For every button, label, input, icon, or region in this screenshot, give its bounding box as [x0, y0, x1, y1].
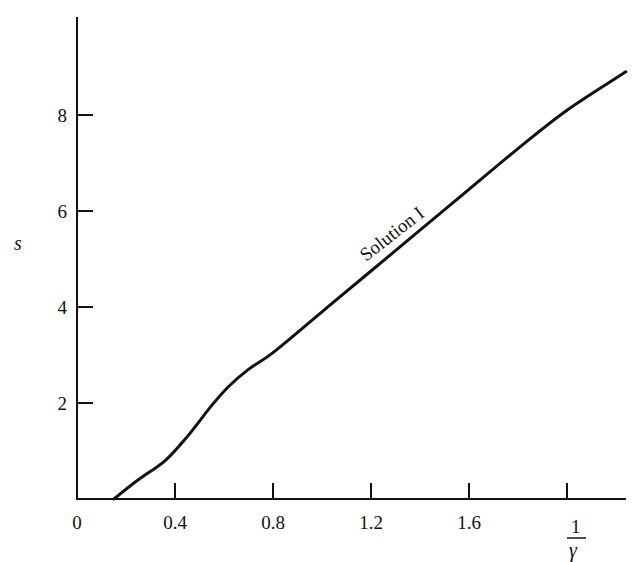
solution-i-curve [114, 72, 626, 499]
x-axis-label: 1 γ [567, 516, 586, 562]
x-axis-label-denominator: γ [569, 539, 578, 562]
x-tick-label: 0.4 [163, 512, 187, 533]
x-tick-label: 0.8 [261, 512, 285, 533]
y-tick-label: 8 [58, 105, 68, 126]
y-tick-label: 2 [58, 393, 68, 414]
x-ticks: 00.40.81.21.6 [72, 483, 567, 533]
x-tick-label: 1.6 [457, 512, 481, 533]
y-ticks: 2468 [58, 105, 94, 414]
y-tick-label: 6 [58, 201, 68, 222]
x-tick-label: 0 [72, 512, 82, 533]
y-axis-label: s [14, 232, 22, 254]
chart: 2468 00.40.81.21.6 Solution I s 1 γ [0, 0, 640, 562]
x-tick-label: 1.2 [359, 512, 383, 533]
y-tick-label: 4 [58, 297, 68, 318]
x-axis-label-numerator: 1 [571, 516, 581, 537]
